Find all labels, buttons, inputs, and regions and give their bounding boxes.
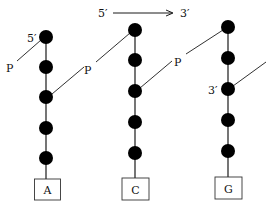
nucleotide-strand-diagram: 5′ 3′ A 5′ P P C P xyxy=(0,0,271,209)
sugar-node xyxy=(221,51,235,65)
sugar-node xyxy=(128,84,142,98)
sugar-node xyxy=(39,121,53,135)
phosphate-link-g-upper xyxy=(186,30,223,54)
phosphate-label: P xyxy=(84,64,92,77)
arrow-end-label: 3′ xyxy=(180,7,190,20)
sugar-node xyxy=(128,146,142,160)
sugar-node xyxy=(221,82,235,96)
phosphate-link-c-upper xyxy=(96,33,130,62)
phosphate-label: P xyxy=(6,62,14,75)
strand-c: C P xyxy=(122,23,182,200)
sugar-node xyxy=(221,20,235,34)
phosphate-label: P xyxy=(174,56,182,69)
three-prime-label: 3′ xyxy=(208,84,218,97)
base-label: G xyxy=(224,183,233,196)
sugar-node xyxy=(221,113,235,127)
phosphate-link-g-3prime xyxy=(233,62,266,86)
sugar-node xyxy=(39,151,53,165)
five-prime-label: 5′ xyxy=(27,32,37,45)
phosphate-link-c-lower xyxy=(140,61,172,88)
sugar-node xyxy=(39,30,53,44)
sugar-node xyxy=(128,53,142,67)
sugar-node xyxy=(128,115,142,129)
sugar-node xyxy=(39,90,53,104)
arrow-start-label: 5′ xyxy=(98,7,108,20)
phosphate-link-a-lower xyxy=(52,67,84,94)
sugar-node xyxy=(221,144,235,158)
sugar-node xyxy=(128,23,142,37)
direction-arrow: 5′ 3′ xyxy=(98,7,190,20)
strand-g: G 3′ xyxy=(208,20,242,199)
strand-a: A 5′ P P xyxy=(6,30,92,200)
base-label: C xyxy=(131,184,139,197)
base-label: A xyxy=(43,184,53,197)
sugar-node xyxy=(39,60,53,74)
